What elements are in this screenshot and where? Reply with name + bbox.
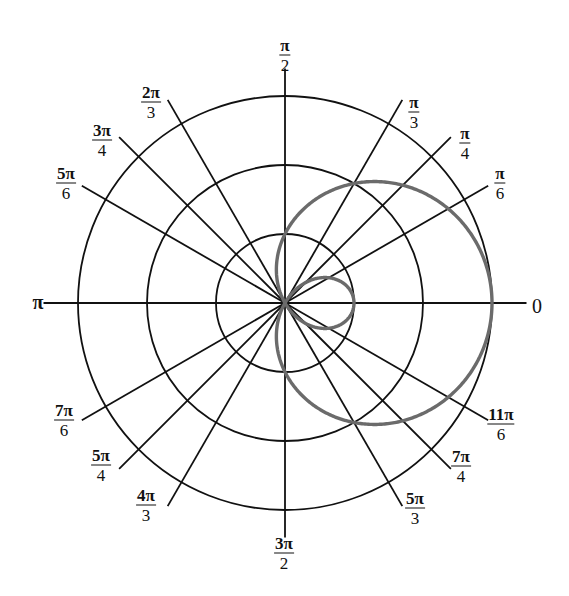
label-denominator: 3 bbox=[147, 103, 156, 121]
angle-label-315: 7π4 bbox=[451, 448, 471, 485]
label-denominator: 2 bbox=[281, 56, 290, 74]
angle-label-240: 4π3 bbox=[136, 487, 156, 524]
label-denominator: 4 bbox=[97, 466, 106, 484]
label-numerator: 7π bbox=[451, 448, 471, 467]
label-numerator: 5π bbox=[91, 447, 111, 466]
label-denominator: 4 bbox=[461, 144, 470, 162]
label-denominator: 4 bbox=[457, 467, 466, 485]
angle-label-300: 5π3 bbox=[405, 490, 425, 527]
label-numerator: 2π bbox=[141, 84, 161, 103]
spoke-135 bbox=[119, 137, 285, 303]
polar-plot bbox=[0, 0, 569, 596]
angle-label-135: 3π4 bbox=[92, 122, 112, 159]
angle-label-0: 0 bbox=[532, 296, 542, 316]
spoke-120 bbox=[168, 100, 285, 303]
label-denominator: 6 bbox=[497, 425, 506, 443]
spoke-300 bbox=[285, 303, 402, 506]
angle-label-180: π bbox=[33, 292, 44, 312]
angle-label-210: 7π6 bbox=[54, 402, 74, 439]
angle-label-60: π3 bbox=[408, 94, 419, 131]
angle-label-120: 2π3 bbox=[141, 84, 161, 121]
label-numerator: 4π bbox=[136, 487, 156, 506]
label-denominator: 6 bbox=[60, 421, 69, 439]
label-text: 0 bbox=[532, 295, 542, 317]
label-numerator: 7π bbox=[54, 402, 74, 421]
label-numerator: π bbox=[459, 125, 470, 144]
label-denominator: 6 bbox=[496, 184, 505, 202]
label-numerator: π bbox=[408, 94, 419, 113]
angle-label-45: π4 bbox=[459, 125, 470, 162]
spoke-330 bbox=[285, 303, 488, 420]
angle-label-225: 5π4 bbox=[91, 447, 111, 484]
label-numerator: π bbox=[279, 37, 290, 56]
label-text: π bbox=[33, 291, 44, 313]
label-denominator: 6 bbox=[62, 184, 71, 202]
label-numerator: π bbox=[494, 165, 505, 184]
label-numerator: 5π bbox=[56, 165, 76, 184]
angle-label-270: 3π2 bbox=[274, 535, 294, 572]
spoke-60 bbox=[285, 100, 402, 303]
angle-label-330: 11π6 bbox=[487, 406, 514, 443]
label-numerator: 5π bbox=[405, 490, 425, 509]
label-denominator: 3 bbox=[142, 506, 151, 524]
spoke-30 bbox=[285, 186, 488, 303]
angle-label-30: π6 bbox=[494, 165, 505, 202]
angle-label-150: 5π6 bbox=[56, 165, 76, 202]
spoke-225 bbox=[119, 303, 285, 469]
label-denominator: 2 bbox=[280, 554, 289, 572]
label-denominator: 4 bbox=[98, 141, 107, 159]
spoke-315 bbox=[285, 303, 451, 469]
spoke-150 bbox=[82, 186, 285, 303]
spoke-45 bbox=[285, 137, 451, 303]
spoke-210 bbox=[82, 303, 285, 420]
spoke-240 bbox=[168, 303, 285, 506]
label-numerator: 3π bbox=[274, 535, 294, 554]
label-denominator: 3 bbox=[411, 509, 420, 527]
label-denominator: 3 bbox=[410, 113, 419, 131]
angle-label-90: π2 bbox=[279, 37, 290, 74]
label-numerator: 3π bbox=[92, 122, 112, 141]
label-numerator: 11π bbox=[487, 406, 514, 425]
